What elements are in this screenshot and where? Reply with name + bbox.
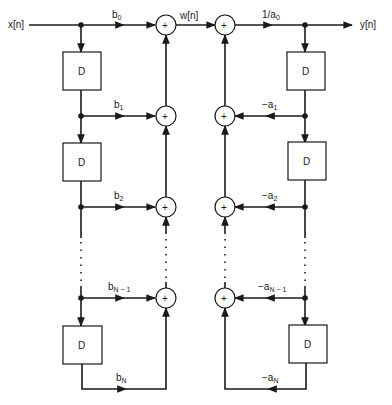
svg-text:+: + xyxy=(221,111,227,122)
adder: + xyxy=(156,197,176,217)
svg-text:+: + xyxy=(162,202,168,213)
input-label: x[n] xyxy=(8,19,24,30)
svg-text:+: + xyxy=(221,20,227,31)
adder: + xyxy=(215,106,235,126)
output-label: y[n] xyxy=(360,19,376,30)
gain-label-a1: −a1 xyxy=(262,99,277,111)
adder: + xyxy=(215,288,235,308)
wire xyxy=(272,363,306,389)
adder: + xyxy=(215,197,235,217)
svg-text:+: + xyxy=(162,111,168,122)
delay-label: D xyxy=(304,339,311,350)
svg-text:+: + xyxy=(162,20,168,31)
gain-label-b2: b2 xyxy=(114,190,124,202)
adder: + xyxy=(156,288,176,308)
delay-label: D xyxy=(78,340,85,351)
gain-label-b0: b0 xyxy=(112,9,122,21)
delay-label: D xyxy=(303,156,310,167)
gain-label-bN-1: bN − 1 xyxy=(108,281,131,293)
svg-text:+: + xyxy=(162,293,168,304)
adder: + xyxy=(215,15,235,35)
gain-label-aN: −aN xyxy=(262,372,278,384)
delay-label: D xyxy=(78,66,85,77)
intermediate-label: w[n] xyxy=(179,10,199,21)
direct-form-i-diagram: x[n] b0 D b1 D b2 bN − 1 D bN + + + + w[… xyxy=(0,0,392,405)
adder: + xyxy=(156,106,176,126)
svg-text:+: + xyxy=(221,202,227,213)
gain-label-a2: −a2 xyxy=(262,190,277,202)
gain-label-b1: b1 xyxy=(114,99,124,111)
delay-label: D xyxy=(78,157,85,168)
gain-label-aN-1: −aN − 1 xyxy=(258,281,286,293)
delay-label: D xyxy=(302,66,309,77)
wire xyxy=(122,308,166,389)
gain-label-bN: bN xyxy=(116,372,127,384)
gain-label-1-over-a0: 1/a0 xyxy=(262,9,280,21)
adder: + xyxy=(156,15,176,35)
svg-text:+: + xyxy=(221,293,227,304)
